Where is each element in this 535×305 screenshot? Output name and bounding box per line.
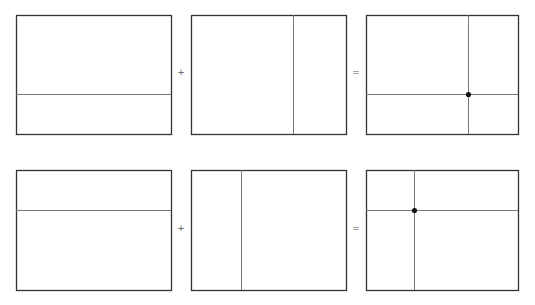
result-row2-intersection-dot bbox=[412, 208, 417, 213]
grid-combination-diagram bbox=[0, 0, 535, 305]
result-row2-frame bbox=[367, 171, 519, 291]
plus-operator-row2: + bbox=[175, 223, 187, 233]
equals-operator-row2: = bbox=[350, 223, 362, 233]
equals-operator-row1: = bbox=[350, 67, 362, 77]
operand-b-row1-frame bbox=[192, 16, 347, 135]
operand-a-row2-frame bbox=[17, 171, 172, 291]
operand-a-row1-frame bbox=[17, 16, 172, 135]
result-row1-frame bbox=[367, 16, 519, 135]
plus-operator-row1: + bbox=[175, 67, 187, 77]
operand-b-row2-frame bbox=[192, 171, 347, 291]
result-row1-intersection-dot bbox=[466, 92, 471, 97]
